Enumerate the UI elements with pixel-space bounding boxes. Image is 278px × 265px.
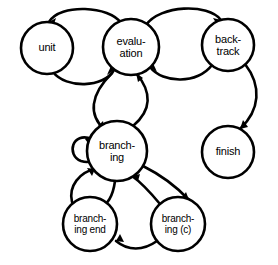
node-branching-end-circle[interactable] xyxy=(63,197,117,251)
edge-branching-to-branching-c xyxy=(143,166,189,200)
arrowhead-branching-end-right xyxy=(116,234,124,242)
edge-branching-c-to-branching-end xyxy=(116,234,157,249)
edge-evaluation-to-backtrack xyxy=(146,9,221,26)
node-backtrack-circle[interactable] xyxy=(202,19,254,71)
node-evaluation-circle[interactable] xyxy=(103,19,159,75)
edge-backtrack-to-evaluation xyxy=(150,63,212,80)
diagram-graphics-layer xyxy=(0,0,278,265)
edge-branching-to-evaluation xyxy=(133,73,148,126)
edge-branching-c-to-branching xyxy=(132,174,160,204)
edge-backtrack-to-finish xyxy=(240,64,256,129)
node-branching-c-circle[interactable] xyxy=(151,197,205,251)
node-unit-circle[interactable] xyxy=(21,22,73,74)
state-diagram: unit evalu- ation back- track finish bra… xyxy=(0,0,278,265)
node-branching-circle[interactable] xyxy=(87,121,147,181)
node-finish-circle[interactable] xyxy=(202,126,254,178)
